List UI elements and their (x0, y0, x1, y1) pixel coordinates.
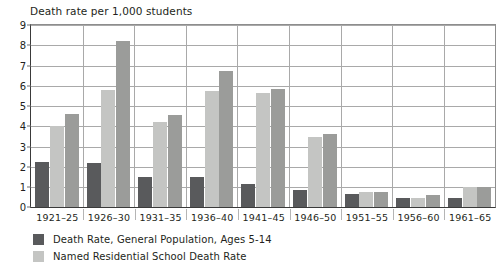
x-gridline (237, 25, 238, 207)
x-axis-separator (393, 209, 394, 220)
bar (396, 198, 410, 207)
y-axis-tick-mark (27, 126, 31, 127)
y-axis-tick-mark (27, 25, 31, 26)
bar (205, 91, 219, 207)
x-axis-tick-label: 1961–65 (449, 212, 491, 223)
plot-inner: 0123456789 (31, 25, 495, 207)
y-axis-tick-mark (27, 85, 31, 86)
x-gridline (289, 25, 290, 207)
bar-chart-figure: Death rate per 1,000 students 0123456789… (0, 0, 503, 274)
y-axis-tick-mark (27, 146, 31, 147)
x-axis-tick-label: 1931–35 (139, 212, 181, 223)
bar (374, 192, 388, 207)
x-gridline (186, 25, 187, 207)
y-gridline (31, 86, 495, 87)
bar (87, 163, 101, 207)
bar (50, 126, 64, 207)
x-gridline (341, 25, 342, 207)
y-axis-tick-mark (27, 106, 31, 107)
x-gridline (134, 25, 135, 207)
bar (293, 190, 307, 207)
bar (116, 41, 130, 207)
x-axis-tick-label: 1926–30 (88, 212, 130, 223)
y-axis-tick-mark (27, 187, 31, 188)
legend-item: Death Rate, General Population, Ages 5-1… (33, 231, 272, 248)
y-gridline (31, 66, 495, 67)
x-axis-separator (444, 209, 445, 220)
bar (426, 195, 440, 207)
y-gridline (31, 45, 495, 46)
bar (359, 192, 373, 207)
x-axis-tick-label: 1941–45 (243, 212, 285, 223)
chart-legend: Death Rate, General Population, Ages 5-1… (33, 231, 272, 265)
x-axis-separator (290, 209, 291, 220)
y-gridline (31, 25, 495, 26)
legend-swatch-residential-school (33, 251, 44, 262)
y-axis-tick-mark (27, 45, 31, 46)
bar (323, 134, 337, 207)
x-gridline (444, 25, 445, 207)
bar (101, 90, 115, 207)
bar (448, 198, 462, 207)
bar (256, 93, 270, 207)
bar (308, 137, 322, 207)
plot-area: 0123456789 (30, 24, 496, 208)
bar (241, 184, 255, 207)
legend-label-residential-school: Named Residential School Death Rate (53, 251, 247, 262)
x-axis-tick-label: 1936–40 (191, 212, 233, 223)
bar (345, 194, 359, 207)
y-axis-tick-mark (27, 65, 31, 66)
x-axis-separator (186, 209, 187, 220)
x-axis-separator (341, 209, 342, 220)
x-axis-tick-label: 1951–55 (346, 212, 388, 223)
x-axis-tick-label: 1921–25 (36, 212, 78, 223)
bar (35, 162, 49, 207)
y-axis-tick-mark (27, 207, 31, 208)
bar (65, 114, 79, 207)
x-gridline (83, 25, 84, 207)
bar (153, 122, 167, 207)
bar (477, 187, 491, 207)
x-axis-separator (135, 209, 136, 220)
bar (168, 115, 182, 207)
bar (190, 177, 204, 207)
chart-title: Death rate per 1,000 students (30, 5, 192, 17)
legend-item: Named Residential School Death Rate (33, 248, 272, 265)
legend-label-general-population: Death Rate, General Population, Ages 5-1… (53, 234, 272, 245)
bar (219, 71, 233, 207)
x-gridline (392, 25, 393, 207)
bar (138, 177, 152, 207)
legend-swatch-general-population (33, 234, 44, 245)
y-axis-tick-mark (27, 166, 31, 167)
bar (411, 198, 425, 207)
x-axis-tick-label: 1946–50 (294, 212, 336, 223)
x-axis-separator (238, 209, 239, 220)
bar (463, 187, 477, 207)
x-axis-tick-label: 1956–60 (397, 212, 439, 223)
bar (271, 89, 285, 207)
x-axis-separator (83, 209, 84, 220)
